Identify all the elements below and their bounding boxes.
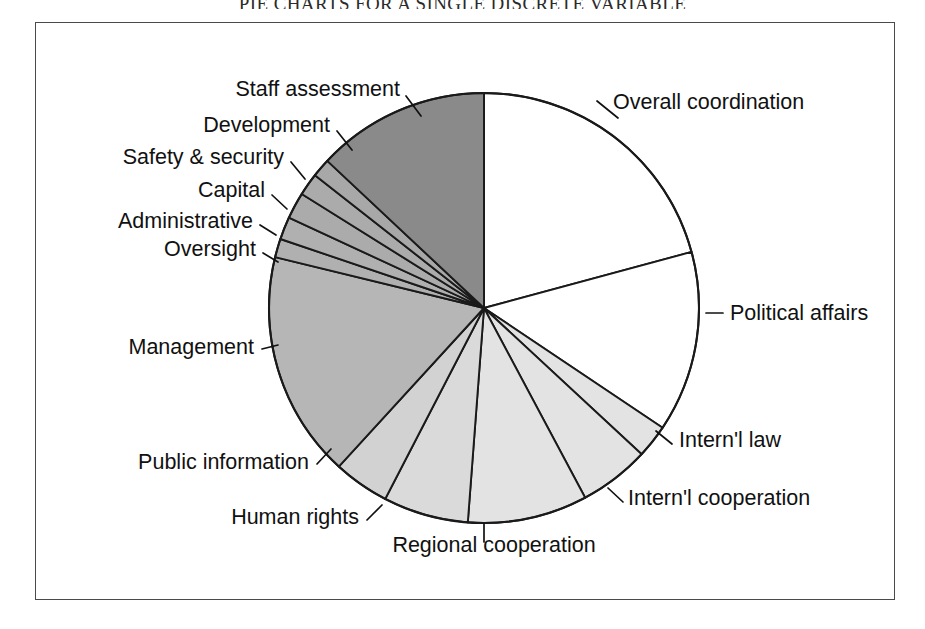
leader-line [291,162,305,179]
pie-slice-label: Capital [198,178,265,202]
figure-frame: Overall coordinationPolitical affairsInt… [35,22,895,600]
pie-slice-label: Staff assessment [235,77,400,101]
pie-chart: Overall coordinationPolitical affairsInt… [36,23,893,598]
leader-line [656,431,672,444]
pie-slice-label: Intern'l cooperation [628,486,810,510]
pie-slice-label: Safety & security [123,145,285,169]
leader-line [608,488,623,502]
leader-line [260,225,276,235]
pie-slice-label: Development [203,113,330,137]
pie-slice-label: Intern'l law [679,428,782,452]
pie-slices [269,93,699,523]
running-head: PIE CHARTS FOR A SINGLE DISCRETE VARIABL… [0,0,925,9]
pie-slice-label: Administrative [118,209,253,233]
pie-slice-label: Management [129,335,255,359]
pie-slice-label: Public information [138,450,309,474]
pie-slice-label: Human rights [231,505,359,529]
leader-line [367,505,382,520]
pie-slice-label: Regional cooperation [392,533,595,557]
pie-slice-label: Overall coordination [613,90,804,114]
pie-slice-label: Political affairs [730,301,868,325]
leader-line [272,195,287,209]
pie-slice-label: Oversight [164,237,256,261]
